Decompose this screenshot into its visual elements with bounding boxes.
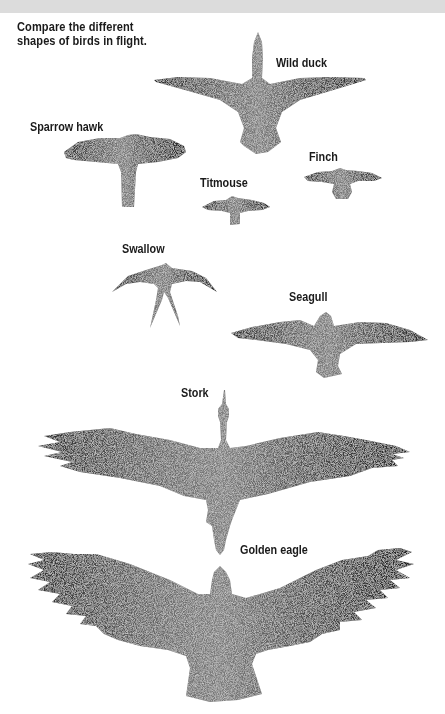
label-stork: Stork	[181, 386, 209, 400]
label-finch: Finch	[309, 150, 338, 164]
label-wild-duck: Wild duck	[276, 56, 327, 70]
label-seagull: Seagull	[289, 290, 327, 304]
bird-illustrations	[0, 0, 445, 714]
sparrow-hawk-silhouette	[64, 134, 186, 207]
label-sparrow-hawk: Sparrow hawk	[30, 120, 103, 134]
swallow-silhouette	[112, 263, 217, 328]
wild-duck-silhouette	[154, 32, 366, 154]
golden-eagle-silhouette	[28, 548, 414, 702]
label-titmouse: Titmouse	[200, 176, 248, 190]
label-swallow: Swallow	[122, 242, 165, 256]
titmouse-silhouette	[202, 196, 270, 225]
stork-silhouette	[38, 390, 410, 555]
seagull-silhouette	[231, 312, 428, 378]
finch-silhouette	[304, 168, 382, 199]
label-golden-eagle: Golden eagle	[240, 543, 308, 557]
